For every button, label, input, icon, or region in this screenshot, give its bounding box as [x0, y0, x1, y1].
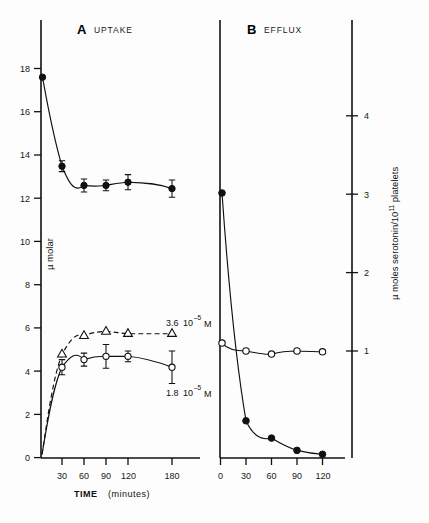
panel-b-title: EFFLUX — [264, 25, 302, 35]
panel-a-x-axis-title-unit: (minutes) — [108, 489, 150, 499]
panel-b-xtick-0: 0 — [218, 471, 223, 481]
panel-a-xtick-90: 90 — [101, 471, 111, 481]
panel-a-xtick-60: 60 — [79, 471, 89, 481]
svg-text:µ moles serotonin/1011 platele: µ moles serotonin/1011 platelets — [388, 167, 400, 300]
panel-a-ytick-12: 12 — [20, 194, 30, 204]
panel-a-label-1-8-exponent: –5 — [194, 384, 202, 391]
panel-b-right-axis-title-main: µ moles serotonin/10 — [389, 212, 400, 300]
panel-a-ytick-10: 10 — [20, 237, 30, 247]
panel-a-ytick-16: 16 — [20, 107, 30, 117]
panel-a-label-3-6-value: 3.6 — [166, 318, 179, 328]
panel-a-x-axis-title: TIME — [74, 489, 98, 499]
panel-a-ytick-0: 0 — [25, 453, 30, 463]
panel-b-xtick-120: 120 — [315, 471, 330, 481]
panel-b-letter: B — [247, 22, 256, 37]
panel-b-right-axis-title: µ moles serotonin/1011 platelets — [388, 167, 400, 300]
panel-a-xtick-30: 30 — [57, 471, 67, 481]
panel-b-xtick-60: 60 — [266, 471, 276, 481]
panel-a-ytick-8: 8 — [25, 280, 30, 290]
panel-a-xtick-180: 180 — [164, 471, 179, 481]
figure-root: A UPTAKE 0 2 4 — [0, 0, 429, 523]
panel-b-xtick-30: 30 — [241, 471, 251, 481]
panel-a-label-3-6-base: 10 — [183, 318, 193, 328]
panel-a-label-1-8-value: 1.8 — [166, 388, 179, 398]
panel-a-title: UPTAKE — [94, 25, 133, 35]
panel-b-right-axis-title-tail: platelets — [389, 167, 400, 205]
panel-a-ytick-18: 18 — [20, 64, 30, 74]
panel-b-ytick-1: 1 — [364, 346, 369, 356]
panel-a-ytick-6: 6 — [25, 323, 30, 333]
panel-a-ytick-2: 2 — [25, 410, 30, 420]
panel-a-label-3-6-unit: M — [204, 319, 212, 329]
panel-a-letter: A — [77, 22, 87, 37]
panel-a-y-axis-title: µ molar — [44, 238, 55, 270]
panel-b-ytick-2: 2 — [364, 268, 369, 278]
panel-a-ytick-14: 14 — [20, 150, 30, 160]
panel-a-ytick-4: 4 — [25, 367, 30, 377]
figure-background — [0, 0, 429, 523]
panel-a-label-3-6-exponent: –5 — [194, 314, 202, 321]
panel-b-xtick-90: 90 — [292, 471, 302, 481]
panel-a-xtick-120: 120 — [121, 471, 136, 481]
panel-a-label-1-8-unit: M — [204, 389, 212, 399]
panel-b-ytick-3: 3 — [364, 190, 369, 200]
panel-b-ytick-4: 4 — [364, 111, 369, 121]
serotonin-uptake-efflux-figure: A UPTAKE 0 2 4 — [0, 0, 429, 523]
panel-a-label-1-8-base: 10 — [183, 388, 193, 398]
